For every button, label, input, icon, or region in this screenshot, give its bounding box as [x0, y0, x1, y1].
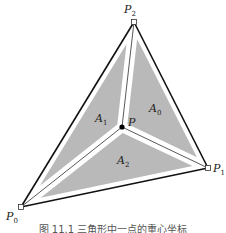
interior-point-p	[119, 124, 124, 129]
vertex-marker-p1	[206, 166, 211, 171]
vertex-marker-p0	[19, 205, 24, 210]
label-p2: P2	[123, 3, 136, 18]
figure-caption: 图 11.1 三角形中一点的重心坐标	[0, 221, 226, 233]
barycentric-diagram: P2 P1 P0 P A0 A1 A2	[0, 0, 226, 233]
vertex-marker-p2	[132, 20, 137, 25]
label-p: P	[127, 116, 136, 129]
label-p1: P1	[212, 162, 225, 177]
region-a0	[127, 39, 196, 157]
